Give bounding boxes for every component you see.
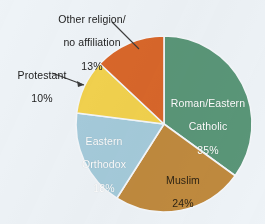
slice-label-value: 35%: [197, 144, 218, 156]
slice-label-line2: Orthodox: [82, 158, 126, 170]
slice-label-line2: no affiliation: [63, 36, 120, 48]
slice-label-line1: Eastern: [86, 135, 123, 147]
slice-label-value: 24%: [172, 197, 193, 209]
slice-label-value: 13%: [81, 60, 102, 72]
slice-label-line1: Other religion/: [58, 13, 125, 25]
slice-label-roman-eastern-catholic: Roman/Eastern Catholic 35%: [156, 86, 260, 157]
slice-label-muslim: Muslim 24%: [146, 163, 220, 210]
slice-label-line1: Roman/Eastern: [171, 97, 245, 109]
slice-label-line1: Muslim: [166, 174, 200, 186]
slice-label-line2: Catholic: [189, 120, 228, 132]
slice-label-other-religion: Other religion/ no affiliation 13%: [44, 2, 140, 73]
slice-label-eastern-orthodox: Eastern Orthodox 18%: [68, 124, 140, 195]
slice-label-value: 18%: [93, 182, 114, 194]
pie-chart: Roman/Eastern Catholic 35% Muslim 24% Ea…: [0, 0, 265, 224]
slice-label-value: 10%: [31, 92, 52, 104]
